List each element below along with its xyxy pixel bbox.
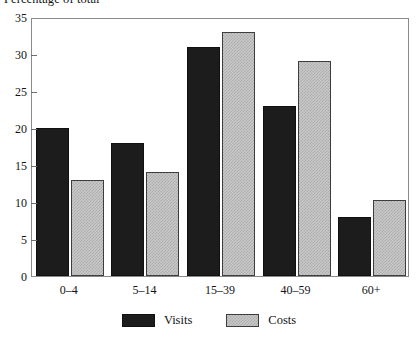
- y-axis-tick-label: 5: [0, 233, 27, 248]
- y-axis-tick-mark: [31, 166, 37, 167]
- x-axis-tick-label: 15–39: [205, 283, 235, 298]
- bar-visits: [263, 106, 296, 276]
- x-axis-tick-label: 60+: [362, 283, 381, 298]
- y-axis-tick-label: 15: [0, 159, 27, 174]
- x-axis-tick-label: 40–59: [281, 283, 311, 298]
- y-axis-tick-label: 20: [0, 122, 27, 137]
- legend-entry: Visits: [122, 313, 192, 328]
- y-axis-tick-mark: [31, 240, 37, 241]
- y-axis: 05101520253035: [0, 0, 27, 338]
- bar-group: [263, 19, 331, 276]
- legend-label: Costs: [268, 313, 296, 328]
- y-axis-tick-label: 25: [0, 85, 27, 100]
- bar-group: [187, 19, 255, 276]
- bar-costs: [298, 61, 331, 276]
- y-axis-tick-mark: [31, 129, 37, 130]
- bar-costs: [146, 172, 179, 276]
- y-axis-tick-label: 10: [0, 196, 27, 211]
- x-axis-tick-label: 5–14: [132, 283, 156, 298]
- y-axis-tick-label: 0: [0, 270, 27, 285]
- chart-legend: VisitsCosts: [0, 313, 418, 328]
- bar-costs: [71, 180, 104, 276]
- y-axis-tick-mark: [31, 203, 37, 204]
- bar-costs: [222, 32, 255, 276]
- legend-swatch-visits: [122, 314, 155, 327]
- plot-area: [31, 18, 409, 277]
- bar-group: [36, 19, 104, 276]
- legend-entry: Costs: [226, 313, 296, 328]
- legend-label: Visits: [164, 313, 192, 328]
- y-axis-tick-label: 30: [0, 48, 27, 63]
- x-axis-tick-label: 0–4: [60, 283, 78, 298]
- bar-group: [111, 19, 179, 276]
- bar-chart: Percentage of total 05101520253035 0–45–…: [0, 0, 418, 338]
- y-axis-tick-mark: [31, 92, 37, 93]
- bar-group: [338, 19, 406, 276]
- bar-visits: [338, 217, 371, 276]
- bar-costs: [373, 200, 406, 276]
- bar-visits: [111, 143, 144, 276]
- bar-visits: [36, 128, 69, 276]
- bar-visits: [187, 47, 220, 276]
- y-axis-tick-label: 35: [0, 11, 27, 26]
- y-axis-tick-mark: [31, 55, 37, 56]
- legend-swatch-costs: [226, 314, 259, 327]
